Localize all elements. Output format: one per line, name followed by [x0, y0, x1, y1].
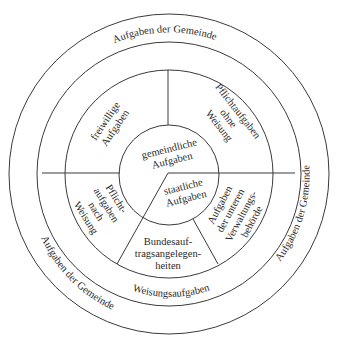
label-weisungsaufgaben: Weisungsaufgaben [132, 281, 212, 299]
label-aufgaben-untere-verwaltungsbehoerde: Aufgaben der unteren Verwaltungs- behörd… [202, 177, 270, 249]
label-staatliche-aufgaben: staatliche Aufgaben [162, 176, 208, 209]
label-freiwillige-aufgaben: freiwillige Aufgaben [88, 100, 132, 149]
label-pflichtaufgaben-ohne-weisung: Pflichtaufgaben ohne Weisung [194, 81, 263, 156]
core-circle [119, 125, 219, 225]
svg-text:tragsangelegen-: tragsangelegen- [135, 248, 202, 259]
outer-ring [9, 14, 329, 334]
label-outer-bottom-left: Aufgaben der Gemeinde [39, 234, 116, 312]
label-gemeindliche-aufgaben: gemeindliche Aufgaben [140, 136, 201, 172]
municipal-tasks-diagram: Aufgaben der Gemeinde Aufgaben der Gemei… [0, 0, 337, 348]
label-bundesauftragsangelegenheiten: Bundesauf- tragsangelegen- heiten [135, 236, 202, 271]
svg-text:Bundesauf-: Bundesauf- [144, 236, 193, 247]
svg-text:heiten: heiten [155, 260, 181, 271]
